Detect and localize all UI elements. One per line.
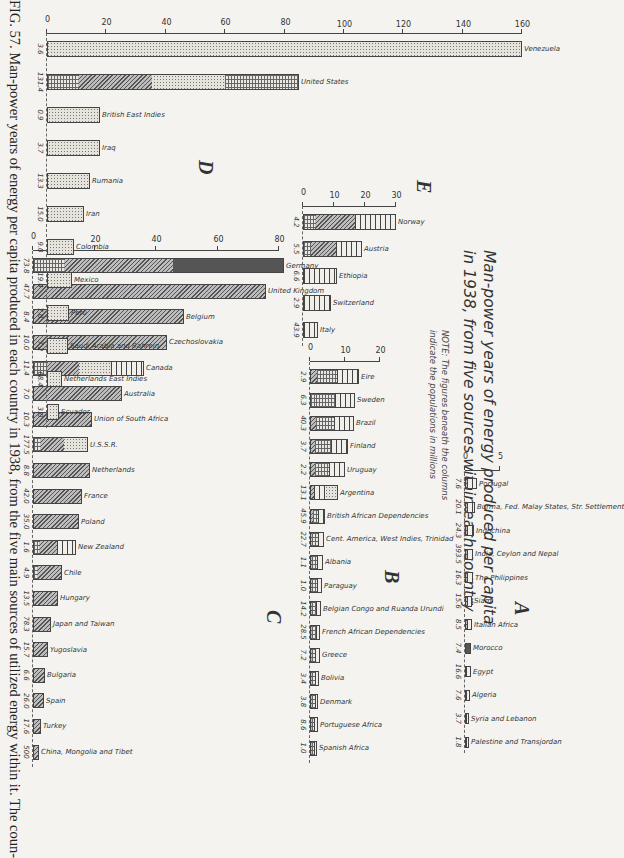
bar-label: Spanish Africa — [319, 744, 369, 752]
bar-d-british-east-indies — [47, 107, 100, 123]
y-tick-label: 10 — [340, 346, 350, 355]
bar-c-germany — [33, 258, 284, 273]
bar-a-morocco — [465, 643, 471, 654]
bar-segment — [467, 550, 473, 559]
bar-label: Portugal — [479, 480, 508, 488]
bar-b-french-african-dependencies — [310, 625, 321, 640]
bar-label: Colombia — [76, 243, 109, 251]
figure-caption: FIG. 57. Man-power years of energy per c… — [6, 0, 23, 858]
bar-label: Syria and Lebanon — [471, 715, 536, 723]
bar-segment — [225, 75, 298, 89]
bar-segment — [313, 510, 319, 523]
bar-label: Morocco — [473, 644, 502, 652]
population-value: 500 — [22, 740, 30, 764]
group-label-a: A — [510, 602, 533, 615]
population-value: 15.0 — [36, 202, 44, 226]
bar-segment — [467, 620, 471, 629]
bar-label: Czechoslovakia — [169, 338, 223, 346]
bar-segment — [316, 394, 335, 407]
bar-b-eire — [310, 369, 359, 384]
group-label-d: D — [194, 160, 217, 174]
y-tick — [395, 202, 396, 206]
bar-segment — [34, 669, 44, 682]
population-value: 7.6 — [454, 683, 462, 707]
bar-b-bolivia — [310, 671, 319, 686]
bar-segment — [312, 649, 315, 662]
bar-segment — [111, 362, 143, 375]
bar-label: Mexico — [74, 276, 99, 284]
bar-segment — [48, 405, 58, 419]
bar-segment — [304, 242, 311, 256]
bar-b-paraguay — [310, 578, 322, 593]
bar-a-the-philippines — [465, 572, 473, 583]
y-tick-label: 0 — [463, 452, 468, 461]
chart-note: NOTE: The figures beneath the columns in… — [427, 330, 451, 500]
y-tick-label: 0 — [308, 343, 313, 352]
population-value: 26.0 — [22, 689, 30, 713]
bar-segment — [336, 242, 361, 256]
bar-a-india-ceylon-and-nepal — [465, 549, 473, 560]
population-value: 177.5 — [22, 433, 30, 457]
bar-segment — [315, 672, 318, 685]
chart-title-line-1: Man-power years of energy produced per c… — [479, 250, 499, 624]
bar-e-italy — [303, 322, 319, 338]
bar-c-yugoslavia — [33, 642, 48, 657]
bar-segment — [311, 417, 316, 430]
bar-label: Siam — [474, 597, 492, 605]
population-value: 15.7 — [22, 638, 30, 662]
y-tick-label: 60 — [213, 235, 223, 244]
bar-segment — [34, 541, 39, 554]
population-value: 17.6 — [22, 714, 30, 738]
bar-label: Portuguese Africa — [320, 721, 382, 729]
baseline-d — [46, 33, 47, 428]
bar-a-italian-africa — [465, 619, 472, 630]
bar-label: Belgian Congo and Ruanda Urundi — [323, 605, 444, 613]
bar-label: Belgium — [186, 313, 215, 321]
bar-b-sweden — [310, 393, 356, 408]
bar-d-ecuador — [47, 404, 59, 420]
bar-label: India, Ceylon and Nepal — [475, 550, 558, 558]
bar-c-hungary — [33, 591, 58, 606]
y-tick — [343, 29, 344, 33]
population-value: 8.4 — [22, 305, 30, 329]
baseline-e — [302, 206, 303, 346]
population-value: 7.4 — [454, 636, 462, 660]
chart-title: Man-power years of energy produced per c… — [459, 250, 499, 624]
y-tick-label: 140 — [456, 20, 471, 29]
bar-c-bulgaria — [33, 668, 45, 683]
bar-label: Bulgaria — [47, 671, 76, 679]
y-tick — [278, 246, 279, 250]
population-value: 10.3 — [22, 407, 30, 431]
y-axis-e — [303, 206, 396, 207]
bar-segment — [311, 463, 315, 476]
population-value: 3.6 — [36, 37, 44, 61]
bar-d-iran — [47, 206, 84, 222]
bar-segment — [34, 592, 57, 605]
population-value: 3.8 — [299, 690, 307, 714]
bar-label: Italian Africa — [474, 621, 518, 629]
chart-note-line-2: indicate the populations in millions — [427, 330, 439, 500]
y-tick — [464, 466, 465, 470]
population-value: 8.6 — [299, 713, 307, 737]
y-axis-b — [310, 361, 380, 362]
bar-label: Cent. America, West Indies, Trinidad — [326, 535, 453, 543]
bar-segment — [337, 370, 358, 383]
bar-label: Palestine and Transjordan — [471, 738, 562, 746]
population-value: 6.6 — [22, 663, 30, 687]
bar-segment — [355, 215, 395, 229]
bar-segment — [466, 526, 467, 535]
bar-d-netherlands-east-indies — [47, 371, 62, 387]
bar-segment — [312, 695, 315, 708]
bar-segment — [34, 566, 37, 579]
bar-label: Paraguay — [324, 582, 357, 590]
population-value: 6.6 — [292, 264, 300, 288]
bar-segment — [311, 440, 315, 453]
bar-segment — [304, 269, 336, 283]
bar-segment — [314, 742, 316, 755]
group-label-c: C — [262, 610, 285, 623]
bar-label: Finland — [351, 442, 377, 450]
bar-segment — [466, 691, 469, 700]
y-tick — [364, 202, 365, 206]
y-tick — [521, 29, 522, 33]
bar-segment — [311, 718, 312, 731]
